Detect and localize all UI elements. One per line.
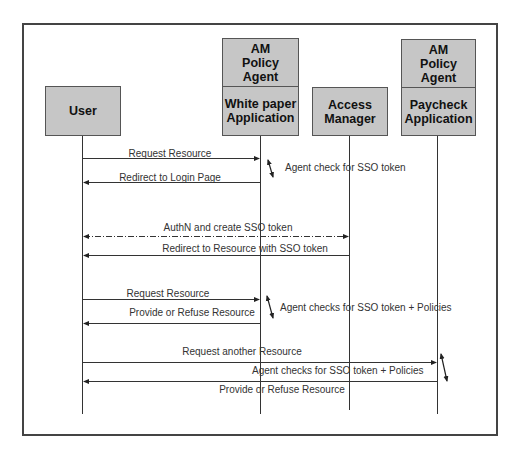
note-agent-check-3: Agent checks for SSO token + Policies xyxy=(252,365,423,377)
note-agent-check-2: Agent checks for SSO token + Policies xyxy=(280,302,451,314)
msg-label-provide-refuse-2: Provide or Refuse Resource xyxy=(219,384,345,396)
msg-label-redirect-resource: Redirect to Resource with SSO token xyxy=(162,243,328,255)
msg-label-request-resource-1: Request Resource xyxy=(129,148,212,160)
msg-label-request-another: Request another Resource xyxy=(182,346,302,358)
msg-label-redirect-login: Redirect to Login Page xyxy=(119,172,221,184)
msg-label-provide-refuse-1: Provide or Refuse Resource xyxy=(129,307,255,319)
msg-label-request-resource-2: Request Resource xyxy=(127,288,210,300)
note-agent-check-1: Agent check for SSO token xyxy=(285,162,406,174)
msg-label-authn: AuthN and create SSO token xyxy=(164,222,293,234)
note-arrow-2 xyxy=(267,296,273,318)
note-arrow-3 xyxy=(441,354,447,381)
note-arrow-1 xyxy=(268,160,273,177)
